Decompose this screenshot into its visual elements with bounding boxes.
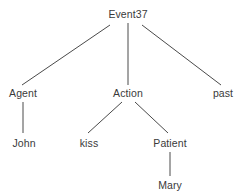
tree-node-root: Event37 [108, 8, 147, 20]
tree-node-kiss: kiss [80, 137, 98, 149]
tree-node-agent: Agent [9, 87, 37, 99]
tree-node-past: past [213, 87, 233, 99]
tree-edge-root-agent [22, 25, 110, 85]
tree-node-action: Action [113, 87, 143, 99]
tree-edge-root-past [142, 25, 221, 85]
tree-node-patient: Patient [153, 137, 186, 149]
tree-edge-action-patient [135, 102, 168, 133]
diagram-canvas: Event37AgentActionpastJohnkissPatientMar… [0, 0, 245, 196]
edge-group [22, 23, 221, 176]
tree-node-mary: Mary [158, 179, 182, 191]
tree-node-john: John [12, 137, 35, 149]
tree-edge-action-kiss [88, 102, 122, 133]
